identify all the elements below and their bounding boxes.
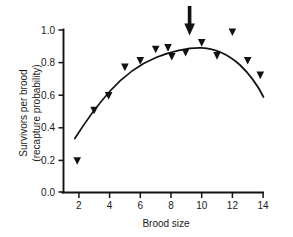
- data-point-marker: [73, 157, 81, 165]
- x-tick-label-2: 4: [107, 200, 113, 211]
- x-tick-label-1: 2: [76, 200, 82, 211]
- data-point-marker: [152, 46, 160, 54]
- x-tick-label-7: 14: [258, 200, 270, 211]
- y-tick-label-4: 0.4: [41, 122, 55, 133]
- chart-figure: 1.0 0.8 0.6 0.4 0.2 0.0 2 4 6 8 10 12 14…: [0, 0, 293, 237]
- data-point-marker: [198, 39, 206, 47]
- data-point-marker: [257, 72, 265, 80]
- y-tick-label-5: 0.2: [41, 155, 55, 166]
- y-tick-label-3: 0.6: [41, 90, 55, 101]
- fitted-curve: [75, 48, 264, 139]
- data-points: [73, 29, 264, 165]
- x-axis-title: Brood size: [142, 218, 190, 229]
- x-tick-label-3: 6: [138, 200, 144, 211]
- y-axis-title-line1: Survivors per brood: [18, 69, 29, 156]
- data-point-marker: [182, 49, 190, 57]
- x-tick-label-5: 10: [196, 200, 208, 211]
- x-tick-label-6: 12: [227, 200, 239, 211]
- data-point-marker: [168, 53, 176, 61]
- x-tick-label-4: 8: [168, 200, 174, 211]
- y-tick-label-6: 0.0: [41, 187, 55, 198]
- chart-plot-area: 1.0 0.8 0.6 0.4 0.2 0.0 2 4 6 8 10 12 14…: [0, 0, 293, 237]
- data-point-marker: [229, 29, 237, 37]
- data-point-marker: [244, 57, 252, 65]
- y-tick-label-1: 1.0: [41, 25, 55, 36]
- y-axis-title-line2: (recapture probability): [31, 64, 42, 161]
- y-tick-label-2: 0.8: [41, 57, 55, 68]
- data-point-marker: [164, 44, 172, 52]
- data-point-marker: [121, 64, 129, 72]
- optimal-brood-size-arrow-icon: [184, 6, 195, 36]
- data-point-marker: [213, 52, 221, 60]
